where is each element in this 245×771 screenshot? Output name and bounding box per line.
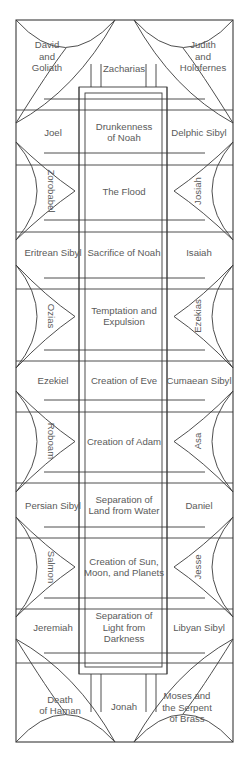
lunette-figure-left: Roboam (46, 423, 57, 459)
labels: DavidandGoliathJudithandHolofernesDeatho… (24, 39, 231, 724)
side-figure-right: Daniel (185, 500, 212, 511)
corner-label-bottom-left: of Haman (39, 705, 81, 716)
lunette-figure-left: Salmon (46, 551, 57, 584)
side-figure-right: Libyan Sibyl (173, 622, 225, 633)
panel-label: Temptation and (91, 305, 157, 316)
end-figure-bottom: Jonah (111, 701, 137, 712)
lunette-left-inner-arc (16, 265, 37, 368)
panel-label: Separation of (95, 610, 152, 621)
lunette-figure-left: Zorobabel (46, 169, 57, 212)
panel-label: Separation of (95, 494, 152, 505)
corner-label-top-right: and (195, 51, 211, 62)
panel-label: Expulsion (103, 316, 145, 327)
spandrel-top-right-edge-arc (134, 20, 233, 48)
corner-label-top-right: Judith (190, 39, 216, 50)
panel-label: Moon, and Planets (84, 567, 164, 578)
lunette-right-outline (174, 265, 233, 368)
panel-label: Sacrifice of Noah (87, 247, 160, 258)
end-figure-top: Zacharias (103, 63, 145, 74)
panel-label: Drunkenness (96, 121, 153, 132)
ceiling-diagram: DavidandGoliathJudithandHolofernesDeatho… (0, 0, 245, 771)
side-figure-right: Delphic Sibyl (171, 127, 226, 138)
side-figure-right: Isaiah (186, 247, 212, 258)
lunette-right-outline (174, 391, 233, 492)
lunette-left-outline (16, 517, 75, 617)
spandrel-bottom-left-diagonal-arc (16, 639, 115, 742)
side-figure-right: Cumaean Sibyl (166, 375, 231, 386)
side-figure-left: Joel (44, 127, 62, 138)
lunette-left-outline (16, 391, 75, 492)
panel-label: of Noah (107, 132, 141, 143)
lunette-right-inner-arc (212, 391, 233, 492)
lunette-left-outline (16, 265, 75, 368)
corner-label-top-right: Holofernes (180, 62, 227, 73)
lunette-right-inner-arc (212, 517, 233, 617)
panel-label: Creation of Sun, (89, 556, 158, 567)
corner-label-bottom-right: of Brass (169, 713, 204, 724)
side-figure-left: Persian Sibyl (25, 500, 81, 511)
panel-label: Creation of Eve (91, 375, 157, 386)
panel-label: The Flood (102, 186, 145, 197)
corner-label-bottom-right: Moses and (164, 690, 211, 701)
spandrel-bottom-left-edge-arc (16, 715, 115, 743)
corner-label-bottom-left: Death (47, 694, 73, 705)
spandrel-top-left-edge-arc (16, 20, 115, 48)
side-figure-left: Jeremiah (33, 622, 72, 633)
corner-label-bottom-right: the Serpent (162, 702, 212, 713)
lunette-right-outline (174, 142, 233, 240)
lunette-left-inner-arc (16, 142, 37, 240)
corner-label-top-left: David (35, 39, 60, 50)
lunette-left-inner-arc (16, 517, 37, 617)
lunette-left-outline (16, 142, 75, 240)
lunette-right-outline (174, 517, 233, 617)
lunette-figure-right: Jesse (192, 554, 203, 579)
corner-label-top-left: and (39, 51, 55, 62)
panel-label: Light from (103, 622, 146, 633)
lunette-figure-right: Josiah (192, 177, 203, 205)
panel-label: Darkness (104, 633, 145, 644)
panel-label: Creation of Adam (87, 436, 161, 447)
lunette-figure-right: Ezekias (192, 299, 203, 333)
lunette-right-inner-arc (212, 142, 233, 240)
side-figure-left: Eritrean Sibyl (24, 247, 81, 258)
corner-label-top-left: Goliath (32, 62, 62, 73)
side-figure-left: Ezekiel (38, 375, 69, 386)
panel-label: Land from Water (88, 505, 160, 516)
lunette-figure-left: Ozias (46, 304, 57, 329)
lunette-figure-right: Asa (192, 432, 203, 449)
lunette-left-inner-arc (16, 391, 37, 492)
lunette-right-inner-arc (212, 265, 233, 368)
